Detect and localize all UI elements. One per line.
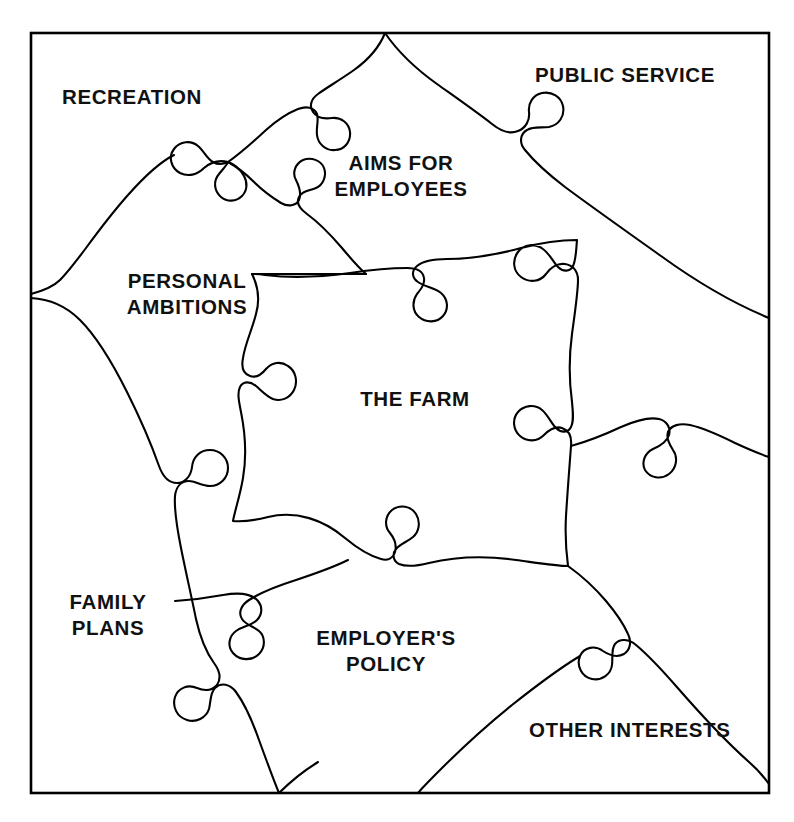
- piece-aims-for-employees-outline: [228, 33, 385, 162]
- label-aims-for-employees: AIMS FOR EMPLOYEES: [306, 150, 496, 202]
- label-personal-ambitions: PERSONAL AMBITIONS: [97, 268, 277, 320]
- piece-personal-family-divider: [31, 298, 228, 619]
- piece-employers-bottom-edge: [279, 762, 318, 793]
- diagram-canvas: RECREATION PUBLIC SERVICE AIMS FOR EMPLO…: [0, 0, 794, 822]
- label-employers-policy: EMPLOYER'S POLICY: [296, 625, 476, 677]
- label-family-plans: FAMILY PLANS: [44, 589, 172, 641]
- piece-employers-other-divider: [568, 566, 769, 784]
- diagram-frame: [31, 33, 769, 793]
- label-public-service: PUBLIC SERVICE: [535, 62, 715, 88]
- label-the-farm: THE FARM: [335, 386, 495, 412]
- piece-recreation-personal-divider: [171, 142, 228, 175]
- piece-public-service-lower-edge: [571, 418, 769, 477]
- label-other-interests: OTHER INTERESTS: [529, 717, 731, 743]
- label-recreation: RECREATION: [62, 84, 202, 110]
- piece-aims-to-personal-divider: [215, 162, 246, 201]
